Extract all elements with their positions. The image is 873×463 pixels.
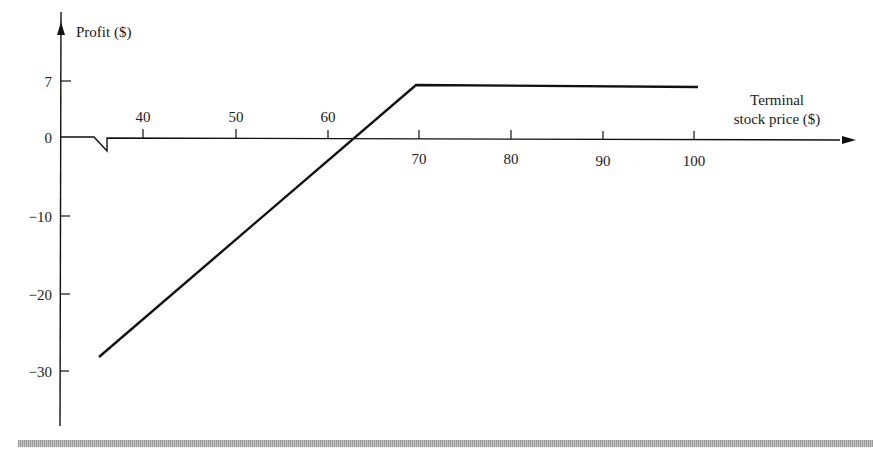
svg-text:−20: −20 [29,287,52,303]
y-ticks [60,81,71,371]
svg-text:stock price ($): stock price ($) [734,111,821,128]
x-axis-arrow-icon [842,136,856,144]
x-axis-label: Terminal stock price ($) [734,92,821,128]
y-axis [60,12,61,426]
svg-text:−10: −10 [29,209,52,225]
svg-text:70: 70 [412,151,427,167]
svg-text:Terminal: Terminal [750,92,804,108]
svg-text:−30: −30 [29,364,52,380]
svg-text:60: 60 [321,109,336,125]
svg-text:90: 90 [596,153,611,169]
y-tick-labels: 7 0 −10 −20 −30 [29,74,53,380]
svg-text:7: 7 [45,74,53,90]
svg-text:100: 100 [683,153,706,169]
bottom-rule [18,440,873,447]
svg-text:80: 80 [504,151,519,167]
y-axis-label: Profit ($) [76,24,131,41]
svg-text:50: 50 [229,109,244,125]
profit-line [99,85,698,357]
svg-text:40: 40 [136,109,151,125]
svg-text:0: 0 [45,130,53,146]
y-axis-arrow-icon [57,22,65,35]
x-axis [61,137,840,151]
profit-chart: Profit ($) Terminal stock price ($) 7 0 … [0,0,873,463]
